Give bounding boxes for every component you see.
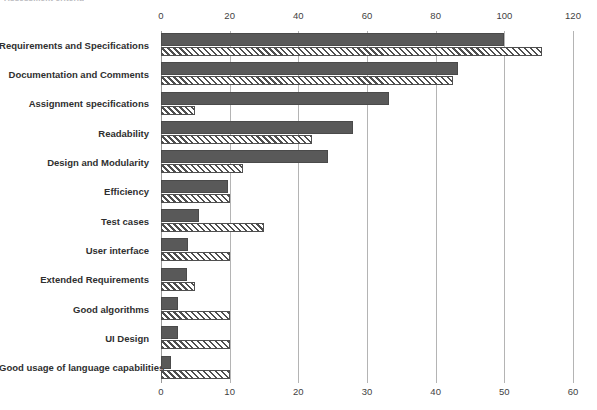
category-axis-labels: Requirements and SpecificationsDocumenta… <box>0 31 155 383</box>
category-label: UI Design <box>0 333 149 344</box>
axis-tick-0: 0 <box>158 386 163 397</box>
axis-tick-20: 20 <box>293 386 304 397</box>
bar-row <box>161 295 573 324</box>
bar-series-2 <box>161 223 264 232</box>
axis-tick-100: 100 <box>496 10 512 21</box>
bar-rows <box>161 31 573 383</box>
bar-row <box>161 236 573 265</box>
bar-series-1 <box>161 209 199 222</box>
plot-area <box>161 31 573 383</box>
bar-series-2 <box>161 311 230 320</box>
axis-tick-40: 40 <box>293 10 304 21</box>
bar-series-1 <box>161 121 353 134</box>
category-label: Efficiency <box>0 186 149 197</box>
bar-series-2 <box>161 135 312 144</box>
gridline-120 <box>573 31 574 383</box>
bar-series-1 <box>161 297 178 310</box>
axis-tick-40: 40 <box>430 386 441 397</box>
top-axis-ticks: 020406080100120 <box>161 10 573 24</box>
horizontal-bar-chart: 020406080100120 Requirements and Specifi… <box>0 0 597 410</box>
bar-row <box>161 119 573 148</box>
bar-series-1 <box>161 92 389 105</box>
axis-tick-20: 20 <box>224 10 235 21</box>
bar-series-1 <box>161 268 187 281</box>
bar-series-1 <box>161 150 328 163</box>
axis-tick-10: 10 <box>224 386 235 397</box>
bar-row <box>161 354 573 383</box>
bar-row <box>161 324 573 353</box>
bar-series-2 <box>161 370 230 379</box>
bar-row <box>161 266 573 295</box>
bar-row <box>161 60 573 89</box>
bar-row <box>161 178 573 207</box>
category-label: Readability <box>0 128 149 139</box>
category-label: Design and Modularity <box>0 157 149 168</box>
category-label: Extended Requirements <box>0 274 149 285</box>
category-label: User interface <box>0 245 149 256</box>
axis-tick-50: 50 <box>499 386 510 397</box>
bar-series-2 <box>161 47 542 56</box>
axis-tick-60: 60 <box>362 10 373 21</box>
bar-series-1 <box>161 238 188 251</box>
axis-tick-120: 120 <box>565 10 581 21</box>
axis-tick-30: 30 <box>362 386 373 397</box>
bar-series-2 <box>161 340 230 349</box>
bar-series-2 <box>161 76 453 85</box>
bar-row <box>161 207 573 236</box>
bar-row <box>161 148 573 177</box>
bottom-axis-ticks: 0102030405060 <box>161 386 573 400</box>
bar-row <box>161 31 573 60</box>
category-label: Assignment specifications <box>0 98 149 109</box>
category-label: Requirements and Specifications <box>0 40 149 51</box>
category-label: Test cases <box>0 216 149 227</box>
category-label: Documentation and Comments <box>0 69 149 80</box>
bar-series-2 <box>161 106 195 115</box>
axis-tick-60: 60 <box>568 386 579 397</box>
bar-series-2 <box>161 164 243 173</box>
bar-series-2 <box>161 282 195 291</box>
axis-tick-80: 80 <box>430 10 441 21</box>
category-label: Good algorithms <box>0 304 149 315</box>
bar-series-1 <box>161 180 228 193</box>
bar-series-2 <box>161 252 230 261</box>
bar-series-1 <box>161 326 178 339</box>
bar-series-2 <box>161 194 230 203</box>
axis-tick-0: 0 <box>158 10 163 21</box>
bar-series-1 <box>161 33 504 46</box>
bar-series-1 <box>161 356 171 369</box>
category-label: Good usage of language capabilities <box>0 362 149 373</box>
bar-row <box>161 90 573 119</box>
bar-series-1 <box>161 62 458 75</box>
